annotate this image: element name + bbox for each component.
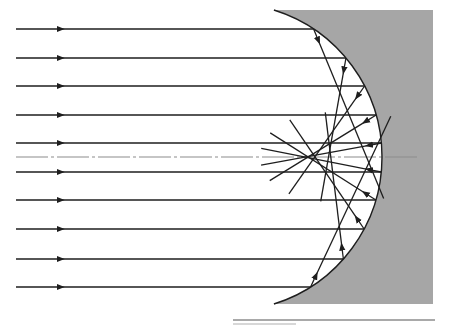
reflected-ray-arrow: [342, 245, 344, 259]
reflected-ray-arrow: [357, 86, 365, 97]
reflected-ray-arrow: [356, 217, 364, 229]
reflected-ray-arrow: [364, 115, 376, 122]
reflected-ray-arrow: [364, 192, 376, 200]
reflected-ray: [290, 120, 356, 218]
incident-rays: [16, 29, 381, 287]
reflected-ray: [289, 97, 357, 193]
reflected-ray: [261, 148, 367, 169]
concave-mirror-diagram: [0, 0, 449, 325]
reflected-ray: [270, 133, 364, 193]
reflected-ray-arrow: [344, 58, 346, 72]
